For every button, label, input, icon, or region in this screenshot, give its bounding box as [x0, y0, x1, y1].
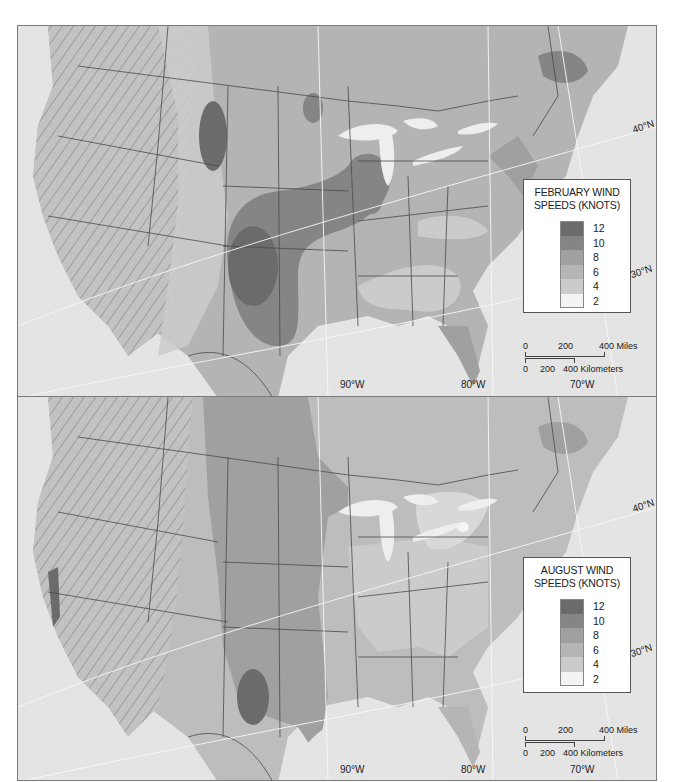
legend-swatch	[560, 294, 584, 309]
legend-label: 4	[593, 658, 599, 670]
legend-label: 2	[593, 295, 599, 307]
august-wind-map: 40°N 30°N 90°W 80°W 70°W AUGUST WIND SPE…	[17, 396, 657, 781]
scale-miles-0: 0	[523, 341, 528, 351]
legend-row-4: 4	[560, 279, 630, 294]
legend-title-line2: SPEEDS (KNOTS)	[524, 577, 630, 590]
longitude-label-70w: 70°W	[570, 764, 595, 775]
legend-swatch	[560, 672, 584, 687]
scale-km-0: 0	[523, 748, 528, 758]
february-legend: FEBRUARY WIND SPEEDS (KNOTS) 12 10 8 6 4…	[523, 179, 631, 313]
scale-km-200: 200	[540, 748, 555, 758]
longitude-label-90w: 90°W	[340, 764, 365, 775]
scale-km-bar	[525, 742, 575, 747]
legend-label: 12	[593, 600, 605, 612]
scale-km-bar	[525, 358, 575, 363]
legend-swatch	[560, 265, 584, 280]
legend-row-12: 12	[560, 599, 630, 614]
legend-swatch	[560, 614, 584, 629]
legend-row-8: 8	[560, 250, 630, 265]
scale-miles-bar	[525, 736, 605, 741]
legend-row-6: 6	[560, 265, 630, 280]
legend-swatch	[560, 279, 584, 294]
february-wind-map: 40°N 30°N 90°W 80°W 70°W FEBRUARY WIND S…	[17, 25, 657, 397]
august-scale-bar: 0 200 400 Miles 0 200 400 Kilometers	[523, 725, 653, 765]
legend-row-12: 12	[560, 221, 630, 236]
legend-label: 10	[593, 615, 605, 627]
scale-miles-200: 200	[558, 341, 573, 351]
scale-miles-0: 0	[523, 725, 528, 735]
legend-swatch	[560, 236, 584, 251]
scale-km-400: 400 Kilometers	[563, 364, 623, 374]
longitude-label-90w: 90°W	[340, 379, 365, 390]
legend-swatch	[560, 643, 584, 658]
february-scale-bar: 0 200 400 Miles 0 200 400 Kilometers	[523, 341, 653, 381]
legend-label: 8	[593, 629, 599, 641]
legend-row-6: 6	[560, 643, 630, 658]
scale-km-0: 0	[523, 364, 528, 374]
scale-km-400: 400 Kilometers	[563, 748, 623, 758]
legend-row-8: 8	[560, 628, 630, 643]
longitude-label-80w: 80°W	[461, 764, 486, 775]
legend-title-line1: FEBRUARY WIND	[524, 186, 630, 199]
legend-swatch	[560, 250, 584, 265]
scale-km-200: 200	[540, 364, 555, 374]
august-legend: AUGUST WIND SPEEDS (KNOTS) 12 10 8 6 4 2	[523, 557, 631, 693]
legend-label: 6	[593, 644, 599, 656]
legend-row-4: 4	[560, 657, 630, 672]
scale-miles-400: 400 Miles	[599, 725, 638, 735]
legend-title-line1: AUGUST WIND	[524, 564, 630, 577]
legend-label: 2	[593, 673, 599, 685]
legend-label: 8	[593, 251, 599, 263]
legend-label: 6	[593, 266, 599, 278]
legend-label: 10	[593, 237, 605, 249]
scale-miles-bar	[525, 352, 605, 357]
legend-row-2: 2	[560, 294, 630, 309]
legend-row-10: 10	[560, 236, 630, 251]
legend-swatch	[560, 657, 584, 672]
legend-label: 4	[593, 280, 599, 292]
legend-swatch	[560, 628, 584, 643]
scale-miles-200: 200	[558, 725, 573, 735]
legend-row-2: 2	[560, 672, 630, 687]
legend-label: 12	[593, 222, 605, 234]
legend-title-line2: SPEEDS (KNOTS)	[524, 199, 630, 212]
scale-miles-400: 400 Miles	[599, 341, 638, 351]
longitude-label-80w: 80°W	[461, 379, 486, 390]
legend-swatch	[560, 221, 584, 236]
legend-swatch	[560, 599, 584, 614]
legend-row-10: 10	[560, 614, 630, 629]
